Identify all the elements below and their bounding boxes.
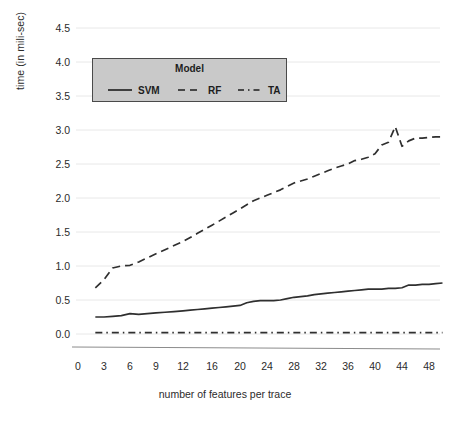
legend-entries: SVM RF TA [93,81,286,99]
legend-swatch-dashdot [237,85,263,95]
legend: Model SVM RF TA [92,58,287,102]
x-tick-label: 24 [261,360,273,372]
x-tick-label: 12 [177,360,189,372]
x-tick-label: 32 [315,360,327,372]
x-tick-label: 3 [101,360,107,372]
x-tick-label: 6 [127,360,133,372]
legend-title: Model [93,63,286,74]
chart-figure: time (in mili-sec) 4.5 4.0 3.5 3.0 2.5 2… [0,0,450,422]
x-tick-label: 40 [369,360,381,372]
x-tick-label: 20 [234,360,246,372]
legend-item-svm[interactable]: SVM [107,81,160,99]
legend-label-ta: TA [268,85,281,96]
x-axis-ticks: 0 3 6 9 12 16 20 24 28 32 36 40 44 48 [0,360,450,376]
x-tick-label: 0 [75,360,81,372]
legend-item-rf[interactable]: RF [177,81,221,99]
x-axis-spine [72,347,440,349]
x-tick-label: 36 [342,360,354,372]
x-tick-label: 28 [288,360,300,372]
x-tick-label: 44 [396,360,408,372]
x-tick-label: 48 [423,360,435,372]
x-axis-label: number of features per trace [0,388,450,400]
legend-swatch-dashed [177,85,203,95]
x-tick-label: 16 [206,360,218,372]
legend-label-rf: RF [208,85,221,96]
legend-label-svm: SVM [138,85,160,96]
x-tick-label: 9 [153,360,159,372]
series-line-rf [95,127,442,288]
legend-swatch-solid [107,85,133,95]
legend-item-ta[interactable]: TA [237,81,281,99]
